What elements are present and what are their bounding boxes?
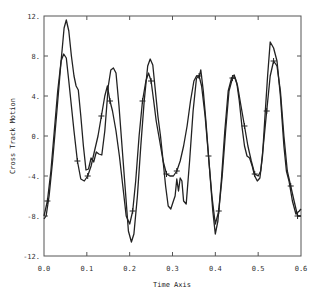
x-tick-label: 0.0 — [38, 265, 51, 273]
x-tick-label: 0.1 — [81, 265, 94, 273]
line-chart: 0.00.10.20.30.40.50.6 12.8.4.0.-4.-8.-12… — [0, 0, 317, 299]
plus-marker-icon — [74, 158, 80, 164]
plus-marker-icon — [130, 208, 136, 214]
x-tick-label: 0.2 — [123, 265, 136, 273]
y-tick-label: -8. — [27, 213, 40, 221]
y-tick-label: 4. — [32, 93, 40, 101]
y-tick-label: 12. — [27, 13, 40, 21]
y-tick-label: 0. — [32, 133, 40, 141]
plus-marker-icon — [98, 113, 104, 119]
x-axis-ticks: 0.00.10.20.30.40.50.6 — [38, 16, 308, 273]
x-tick-label: 0.4 — [209, 265, 222, 273]
plus-marker-icon — [148, 78, 154, 84]
y-axis-ticks: 12.8.4.0.-4.-8.-12. — [23, 13, 301, 261]
plus-marker-icon — [205, 153, 211, 159]
y-tick-label: -12. — [23, 253, 40, 261]
y-tick-label: -4. — [27, 173, 40, 181]
y-axis-title: Cross Track Motion — [9, 98, 17, 174]
plus-marker-icon — [216, 208, 222, 214]
series-layer — [44, 20, 301, 242]
y-tick-label: 8. — [32, 53, 40, 61]
plus-marker-icon — [44, 198, 50, 204]
x-tick-label: 0.5 — [252, 265, 265, 273]
plus-marker-icon — [252, 171, 258, 177]
x-tick-label: 0.6 — [295, 265, 308, 273]
plus-marker-icon — [288, 183, 294, 189]
x-tick-label: 0.3 — [166, 265, 179, 273]
x-axis-title: Time Axis — [153, 281, 191, 289]
series-line-trace-solid — [44, 20, 301, 242]
